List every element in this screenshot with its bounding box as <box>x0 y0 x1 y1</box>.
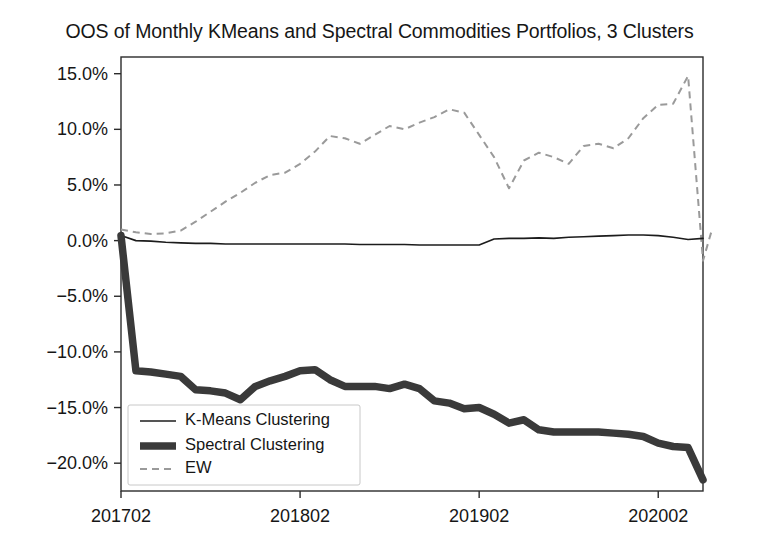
chart-legend: K-Means Clustering Spectral Clustering E… <box>128 405 360 485</box>
y-tick-label: 5.0% <box>67 175 108 195</box>
line-chart-plot: 15.0%10.0%5.0%0.0%−5.0%−10.0%−15.0%−20.0… <box>0 0 759 560</box>
x-tick-label: 201702 <box>91 506 151 526</box>
legend-label-spectral: Spectral Clustering <box>185 435 324 453</box>
legend-label-kmeans: K-Means Clustering <box>185 410 330 428</box>
x-tick-label: 202002 <box>628 506 688 526</box>
y-axis-ticks: 15.0%10.0%5.0%0.0%−5.0%−10.0%−15.0%−20.0… <box>46 64 121 473</box>
series-line-kmeans <box>121 235 703 245</box>
y-tick-label: 10.0% <box>57 119 108 139</box>
x-tick-label: 201802 <box>270 506 330 526</box>
y-tick-label: 0.0% <box>67 231 108 251</box>
legend-label-ew: EW <box>185 458 212 476</box>
y-tick-label: −20.0% <box>46 453 108 473</box>
y-tick-label: 15.0% <box>57 64 108 84</box>
chart-figure: OOS of Monthly KMeans and Spectral Commo… <box>0 0 759 560</box>
y-tick-label: −10.0% <box>46 342 108 362</box>
y-tick-label: −15.0% <box>46 398 108 418</box>
x-tick-label: 201902 <box>449 506 509 526</box>
series-line-ew <box>121 76 712 261</box>
y-tick-label: −5.0% <box>56 286 108 306</box>
x-axis-ticks: 201702201802201902202002 <box>91 491 688 526</box>
